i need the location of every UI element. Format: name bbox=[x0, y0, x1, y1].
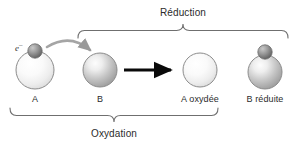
electron-transfer-arrow bbox=[47, 41, 90, 50]
bracket-reduction bbox=[78, 24, 288, 38]
reduction-title: Réduction bbox=[160, 8, 206, 18]
oxydation-title: Oxydation bbox=[91, 129, 137, 139]
label-species-a-oxydee: A oxydée bbox=[181, 95, 219, 104]
label-species-a: A bbox=[32, 95, 38, 104]
electron-sphere-a bbox=[28, 44, 42, 58]
label-species-b-reduite: B réduite bbox=[247, 95, 284, 104]
sphere-b-reduite bbox=[248, 45, 282, 89]
electron-charge-sign: – bbox=[19, 41, 23, 49]
label-species-b: B bbox=[97, 95, 103, 104]
sphere-b bbox=[83, 53, 117, 87]
redox-diagram-canvas bbox=[0, 0, 296, 148]
electron-sphere-b-reduite bbox=[258, 45, 272, 59]
redox-diagram: e– Réduction Oxydation A B A oxydée B ré… bbox=[0, 0, 296, 148]
sphere-a-oxydee bbox=[183, 53, 217, 87]
bracket-oxydation bbox=[10, 108, 218, 122]
electron-label: e– bbox=[15, 42, 23, 53]
